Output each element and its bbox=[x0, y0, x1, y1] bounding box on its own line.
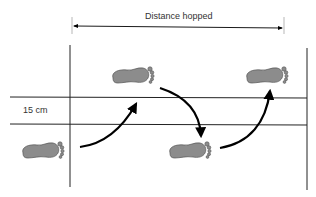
lane-line-top bbox=[10, 97, 307, 98]
footprint-start-icon bbox=[23, 142, 64, 159]
lane-line-bottom bbox=[10, 124, 307, 125]
distance-arrow bbox=[74, 26, 282, 28]
footprint-hop-2-icon bbox=[170, 142, 211, 159]
footprint-hop-3-icon bbox=[247, 67, 288, 84]
lane-width-label: 15 cm bbox=[23, 105, 48, 115]
hop-arrow-1 bbox=[80, 104, 136, 147]
hop-arrow-2 bbox=[160, 88, 201, 136]
hop-test-diagram bbox=[0, 0, 316, 197]
footprint-hop-1-icon bbox=[113, 67, 154, 84]
distance-hopped-label: Distance hopped bbox=[145, 11, 213, 21]
hop-arrow-3 bbox=[220, 91, 270, 148]
